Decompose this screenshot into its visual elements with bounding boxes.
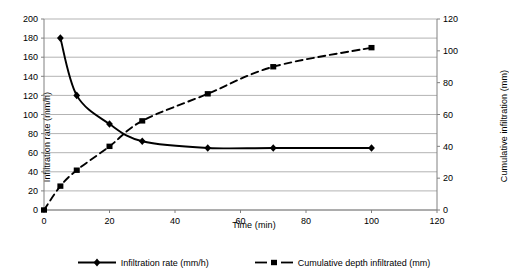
legend-label-cumulative-depth: Cumulative depth infiltrated (mm) <box>298 258 431 268</box>
x-tick-label: 100 <box>364 216 379 226</box>
data-point-marker <box>57 34 64 42</box>
data-point-marker <box>368 144 375 152</box>
legend-key-square-icon <box>255 257 293 268</box>
data-point-marker <box>204 144 211 152</box>
data-series <box>41 34 375 212</box>
x-tick-label: 120 <box>429 216 444 226</box>
y-tick-label-right: 80 <box>443 78 453 88</box>
legend-item-infiltration-rate: Infiltration rate (mm/h) <box>78 257 209 268</box>
data-point-marker <box>139 118 145 123</box>
y-tick-label-left: 180 <box>23 33 38 43</box>
y-tick-label-right: 20 <box>443 173 453 183</box>
y-tick-label-left: 140 <box>23 72 38 82</box>
legend-item-cumulative-depth: Cumulative depth infiltrated (mm) <box>255 257 431 268</box>
y-tick-label-right: 0 <box>443 205 448 215</box>
y-tick-label-right: 100 <box>443 46 458 56</box>
y-tick-label-right: 60 <box>443 110 453 120</box>
y-tick-label-left: 20 <box>28 186 38 196</box>
legend-key-diamond-icon <box>78 257 116 268</box>
x-tick-label: 40 <box>170 216 180 226</box>
data-point-marker <box>139 137 146 145</box>
data-point-marker <box>57 183 63 188</box>
x-tick-label: 20 <box>104 216 114 226</box>
legend-label-infiltration-rate: Infiltration rate (mm/h) <box>121 258 209 268</box>
data-point-marker <box>205 91 211 96</box>
y-tick-label-left: 200 <box>23 14 38 24</box>
data-point-marker <box>74 168 80 173</box>
y-tick-label-left: 0 <box>33 205 38 215</box>
y-tick-label-right: 120 <box>443 14 458 24</box>
y-tick-label-left: 60 <box>28 148 38 158</box>
y-tick-label-left: 160 <box>23 52 38 62</box>
data-point-marker <box>369 45 375 50</box>
data-point-marker <box>270 64 276 69</box>
x-tick-label: 80 <box>301 216 311 226</box>
x-tick-label: 0 <box>41 216 46 226</box>
y-tick-label-right: 40 <box>443 142 453 152</box>
series-line-cumulative-depth <box>44 48 372 210</box>
data-point-marker <box>107 144 113 149</box>
axis-ticks <box>41 19 440 213</box>
series-line-infiltration-rate <box>60 38 371 148</box>
data-point-marker <box>270 144 277 152</box>
axis-tick-labels: 0204060801001201401601802000204060801001… <box>23 14 458 226</box>
x-tick-label: 60 <box>235 216 245 226</box>
y-tick-label-left: 80 <box>28 129 38 139</box>
gridlines <box>44 19 437 210</box>
data-point-marker <box>41 207 47 212</box>
y-tick-label-left: 100 <box>23 110 38 120</box>
chart-legend: Infiltration rate (mm/h) Cumulative dept… <box>0 257 508 268</box>
y-tick-label-left: 120 <box>23 91 38 101</box>
y-tick-label-left: 40 <box>28 167 38 177</box>
